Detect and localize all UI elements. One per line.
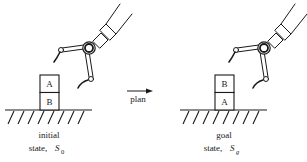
state-label: state,: [29, 143, 48, 153]
state-symbol: S: [230, 143, 235, 153]
block-label: A: [46, 79, 53, 89]
state-subscript: g: [236, 148, 240, 155]
arrow-head-icon: [146, 89, 153, 94]
block-label: B: [221, 79, 227, 89]
plan-label: plan: [130, 94, 146, 104]
state-subscript: 0: [61, 148, 64, 155]
initial-state-scene: A B initial state, S 0: [5, 4, 132, 155]
block-label: B: [46, 97, 52, 107]
initial-state-label: initial: [39, 130, 60, 140]
goal-state-label: goal: [216, 130, 232, 140]
robot-gripper-icon: [229, 4, 307, 88]
plan-arrow: plan: [127, 89, 153, 105]
state-label: state,: [204, 143, 223, 153]
ground-surface-icon: [180, 110, 267, 124]
state-symbol: S: [55, 143, 60, 153]
block-label: A: [221, 97, 228, 107]
robot-gripper-icon: [54, 4, 132, 88]
block-stack: A B: [40, 75, 59, 110]
planning-diagram: A B initial state, S 0 plan B A goal sta…: [0, 0, 307, 162]
block-stack: B A: [215, 75, 234, 110]
goal-state-scene: B A goal state, S g: [180, 4, 307, 155]
ground-surface-icon: [5, 110, 92, 124]
